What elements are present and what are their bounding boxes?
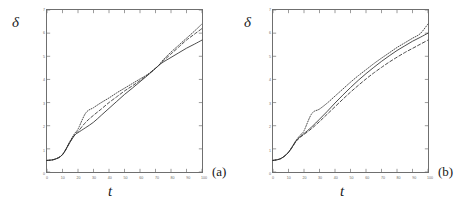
data-series-group-a [47, 24, 202, 161]
panel-caption-b: (b) [438, 164, 453, 180]
panel-b: δ 0102030405060708090100 01234567 t (b) [235, 0, 475, 208]
data-series-dashed [273, 40, 428, 160]
x-tick-label: 70 [381, 176, 385, 180]
panel-a: δ 0102030405060708090100 01234567 t (a) [0, 0, 240, 208]
y-tick-label: 1 [266, 149, 271, 153]
x-tick-label: 40 [334, 176, 338, 180]
x-tick-label: 50 [350, 176, 354, 180]
y-tick-label: 6 [266, 31, 271, 35]
y-tick-label: 7 [40, 8, 45, 12]
y-tick-label: 5 [266, 55, 271, 59]
x-tick-label: 30 [318, 176, 322, 180]
data-series-dotted [47, 24, 202, 161]
x-axis-label-b: t [332, 183, 352, 200]
y-tick-label: 1 [40, 149, 45, 153]
x-axis-label-a: t [100, 183, 120, 200]
y-tick-label: 3 [40, 102, 45, 106]
x-axis-ticks-b [273, 10, 428, 172]
figure-row: δ 0102030405060708090100 01234567 t (a) … [0, 0, 475, 208]
y-tick-label: 6 [40, 31, 45, 35]
x-tick-label: 10 [287, 176, 291, 180]
x-tick-label: 80 [397, 176, 401, 180]
x-tick-label: 90 [186, 176, 190, 180]
y-axis-label-b: δ [244, 14, 251, 31]
panel-caption-a: (a) [212, 164, 226, 180]
x-tick-label: 40 [108, 176, 112, 180]
x-tick-label: 80 [171, 176, 175, 180]
x-tick-label: 0 [272, 176, 274, 180]
x-tick-label: 20 [302, 176, 306, 180]
x-tick-label: 30 [92, 176, 96, 180]
plot-canvas-a [47, 10, 202, 172]
plot-frame-b: 0102030405060708090100 01234567 [272, 9, 429, 173]
plot-frame-a: 0102030405060708090100 01234567 [46, 9, 203, 173]
x-tick-label: 0 [46, 176, 48, 180]
x-tick-label: 70 [155, 176, 159, 180]
y-axis-ticks-b [273, 10, 428, 172]
y-tick-label: 7 [266, 8, 271, 12]
x-tick-label: 60 [139, 176, 143, 180]
x-tick-label: 60 [365, 176, 369, 180]
x-tick-label: 50 [124, 176, 128, 180]
y-tick-label: 5 [40, 55, 45, 59]
x-tick-label: 10 [61, 176, 65, 180]
x-tick-label: 100 [427, 176, 433, 180]
y-tick-label: 0 [40, 172, 45, 176]
x-tick-label: 100 [201, 176, 207, 180]
y-axis-label-a: δ [12, 14, 19, 31]
x-tick-label: 20 [76, 176, 80, 180]
plot-canvas-b [273, 10, 428, 172]
data-series-group-b [273, 24, 428, 161]
y-tick-label: 2 [266, 125, 271, 129]
y-tick-label: 4 [266, 78, 271, 82]
data-series-solid [47, 40, 202, 160]
y-tick-label: 4 [40, 78, 45, 82]
x-tick-label: 90 [412, 176, 416, 180]
y-tick-label: 0 [266, 172, 271, 176]
y-tick-label: 3 [266, 102, 271, 106]
y-tick-label: 2 [40, 125, 45, 129]
